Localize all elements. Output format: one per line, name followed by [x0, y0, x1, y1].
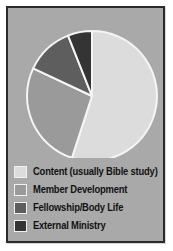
legend-item: Fellowship/Body Life — [14, 199, 161, 216]
legend-swatch-content — [14, 166, 27, 178]
legend-swatch-member-development — [14, 184, 27, 196]
legend-swatch-fellowship — [14, 202, 27, 214]
pie-chart-area — [8, 8, 163, 158]
legend-label-fellowship: Fellowship/Body Life — [33, 202, 123, 213]
figure: Content (usually Bible study) Member Dev… — [0, 0, 173, 251]
legend-label-member-development: Member Development — [33, 184, 127, 195]
pie-slices — [27, 31, 157, 158]
legend-item: Member Development — [14, 181, 161, 198]
chart-legend: Content (usually Bible study) Member Dev… — [14, 163, 161, 237]
legend-item: External Ministry — [14, 217, 161, 234]
legend-swatch-external-ministry — [14, 220, 27, 232]
chart-frame: Content (usually Bible study) Member Dev… — [6, 6, 165, 243]
legend-label-content: Content (usually Bible study) — [33, 166, 158, 177]
legend-item: Content (usually Bible study) — [14, 163, 161, 180]
legend-label-external-ministry: External Ministry — [33, 220, 106, 231]
pie-chart-svg — [8, 8, 163, 158]
